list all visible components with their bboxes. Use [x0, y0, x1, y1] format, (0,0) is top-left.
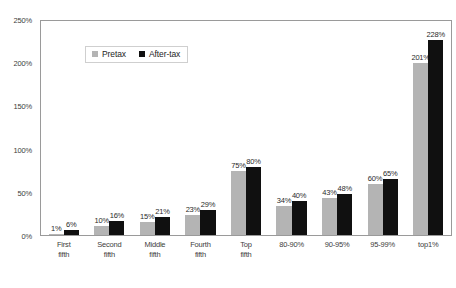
x-axis-tick-label: Second fifth — [97, 240, 121, 259]
bar-value-label: 48% — [337, 184, 351, 193]
bar-value-label: 65% — [383, 169, 397, 178]
bar-value-label: 23% — [186, 205, 200, 214]
bar-after-tax[interactable]: 29% — [200, 210, 215, 235]
y-axis-tick-label: 100% — [14, 145, 32, 154]
x-axis-tick-label: Fourth fifth — [190, 240, 210, 259]
bar-value-label: 10% — [95, 216, 109, 225]
bar-after-tax[interactable]: 228% — [428, 40, 443, 235]
bar-value-label: 40% — [292, 191, 306, 200]
bar-pretax[interactable]: 60% — [368, 184, 383, 235]
x-axis-tick-label: 80-90% — [279, 240, 304, 250]
x-axis-tick-label: Top fifth — [240, 240, 252, 259]
bar-value-label: 1% — [51, 224, 61, 233]
bar-group: 43%48% — [322, 21, 352, 235]
bar-pretax[interactable]: 75% — [231, 171, 246, 235]
bar-value-label: 80% — [246, 157, 260, 166]
bar-value-label: 21% — [155, 207, 169, 216]
bar-after-tax[interactable]: 21% — [155, 217, 170, 235]
bar-value-label: 29% — [201, 200, 215, 209]
bar-after-tax[interactable]: 40% — [292, 201, 307, 235]
bar-pretax[interactable]: 43% — [322, 198, 337, 235]
x-axis-tick-label: 95-99% — [370, 240, 395, 250]
x-axis-tick-label: top1% — [418, 240, 438, 250]
bar-pretax[interactable]: 10% — [94, 226, 109, 235]
bar-after-tax[interactable]: 65% — [383, 179, 398, 235]
bar-pretax[interactable]: 1% — [49, 234, 64, 235]
bar-after-tax[interactable]: 16% — [109, 221, 124, 235]
bar-value-label: 201% — [411, 53, 429, 62]
bar-pretax[interactable]: 23% — [185, 215, 200, 235]
bar-value-label: 34% — [277, 196, 291, 205]
bar-value-label: 75% — [231, 161, 245, 170]
bar-group: 60%65% — [368, 21, 398, 235]
bar-pretax[interactable]: 34% — [276, 206, 291, 235]
bars-layer: 1%6%10%16%15%21%23%29%75%80%34%40%43%48%… — [41, 21, 451, 235]
y-axis: 0%50%100%150%200%250% — [0, 20, 36, 236]
x-axis-tick-label: Middle fifth — [144, 240, 165, 259]
y-axis-tick-label: 200% — [14, 59, 32, 68]
bar-pretax[interactable]: 201% — [413, 63, 428, 235]
bar-value-label: 43% — [322, 188, 336, 197]
bar-group: 23%29% — [185, 21, 215, 235]
bar-after-tax[interactable]: 80% — [246, 167, 261, 235]
bar-group: 10%16% — [94, 21, 124, 235]
y-axis-tick-label: 250% — [14, 16, 32, 25]
y-axis-tick-label: 150% — [14, 102, 32, 111]
y-axis-tick-label: 50% — [18, 188, 32, 197]
bar-after-tax[interactable]: 6% — [64, 230, 79, 235]
bar-group: 75%80% — [231, 21, 261, 235]
bar-pretax[interactable]: 15% — [140, 222, 155, 235]
bar-group: 34%40% — [276, 21, 306, 235]
bar-value-label: 228% — [427, 30, 445, 39]
bar-chart-figure: 0%50%100%150%200%250% PretaxAfter-tax 1%… — [0, 0, 456, 288]
x-axis: First fifthSecond fifthMiddle fifthFourt… — [41, 240, 451, 270]
bar-value-label: 15% — [140, 212, 154, 221]
bar-value-label: 16% — [110, 211, 124, 220]
bar-value-label: 60% — [368, 174, 382, 183]
bar-group: 15%21% — [140, 21, 170, 235]
y-axis-tick-label: 0% — [22, 232, 32, 241]
bar-value-label: 6% — [66, 220, 76, 229]
bar-group: 201%228% — [413, 21, 443, 235]
bar-group: 1%6% — [49, 21, 79, 235]
x-axis-tick-label: First fifth — [57, 240, 71, 259]
bar-after-tax[interactable]: 48% — [337, 194, 352, 235]
x-axis-tick-label: 90-95% — [325, 240, 350, 250]
